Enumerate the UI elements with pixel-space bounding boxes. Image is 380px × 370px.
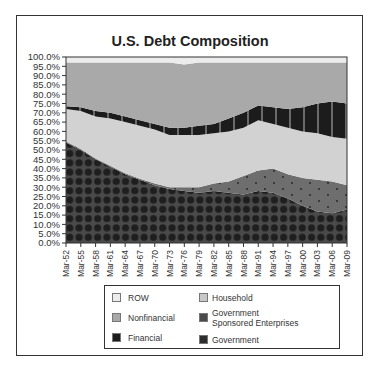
- x-tick-label: Mar-85: [224, 250, 234, 277]
- x-tick-label: Mar-70: [150, 250, 160, 277]
- x-tick-label: Mar-52: [61, 250, 71, 277]
- legend-swatch-financial: [112, 333, 121, 342]
- x-tick-label: Mar-03: [312, 250, 322, 277]
- legend-swatch-gse: [199, 313, 208, 322]
- x-tick-label: Mar-82: [209, 250, 219, 277]
- x-tick-label: Mar-00: [298, 250, 308, 277]
- x-tick-label: Mar-58: [91, 250, 101, 277]
- x-tick-label: Mar-91: [253, 250, 263, 277]
- x-tick-label: Mar-67: [135, 250, 145, 277]
- legend-swatch-nonfinancial: [112, 313, 121, 322]
- x-tick-label: Mar-06: [327, 250, 337, 277]
- stacked-areas: [66, 57, 347, 243]
- y-tick-label: 100.0%: [28, 51, 61, 62]
- legend-swatch-row: [112, 293, 121, 302]
- x-tick-label: Mar-76: [179, 250, 189, 277]
- x-tick-label: Mar-64: [120, 250, 130, 277]
- x-tick-label: Mar-88: [239, 250, 249, 277]
- x-tick-label: Mar-55: [76, 250, 86, 277]
- x-tick-label: Mar-09: [342, 250, 352, 277]
- legend-swatch-government: [199, 335, 208, 344]
- x-tick-label: Mar-73: [165, 250, 175, 277]
- x-tick-label: Mar-97: [283, 250, 293, 277]
- x-tick-label: Mar-61: [105, 250, 115, 277]
- legend-swatch-household: [199, 293, 208, 302]
- x-tick-label: Mar-94: [268, 250, 278, 277]
- x-tick-label: Mar-79: [194, 250, 204, 277]
- legend: ROW Household Nonfinancial Government Sp…: [104, 285, 340, 349]
